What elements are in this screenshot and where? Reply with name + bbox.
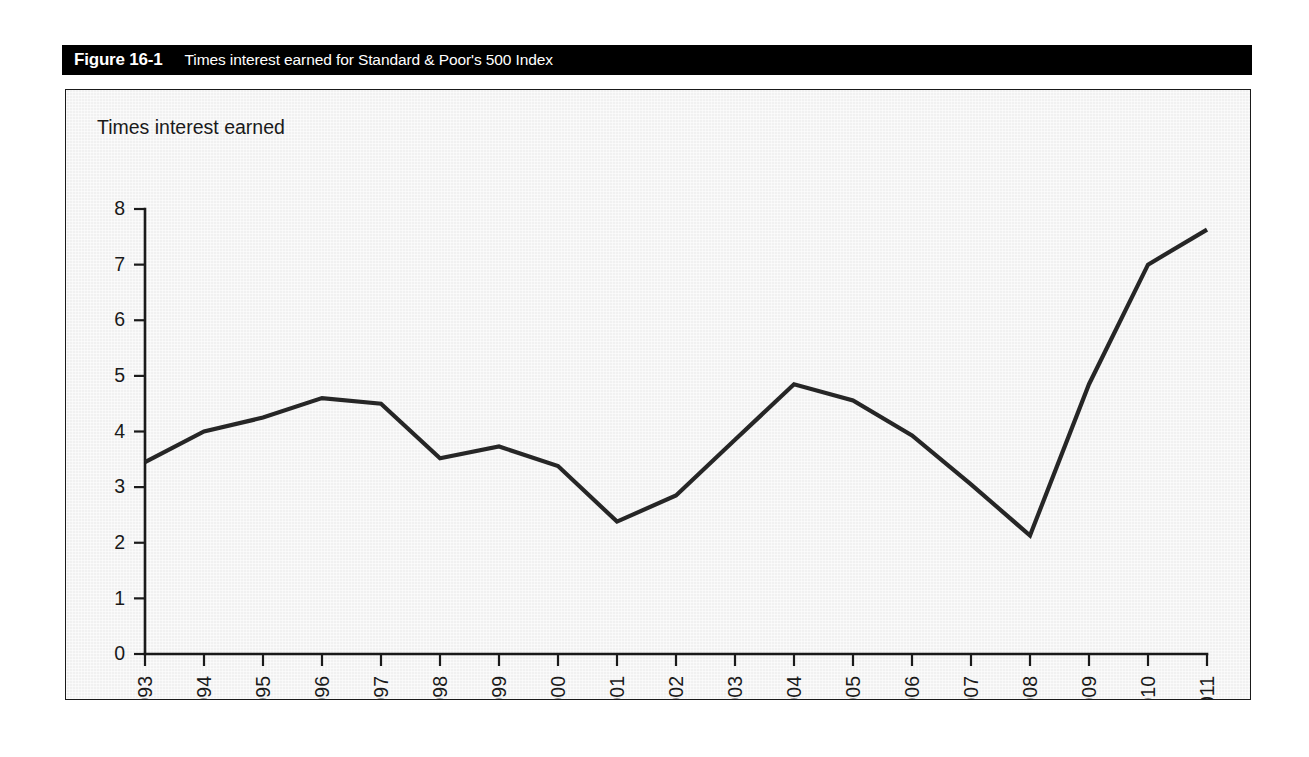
x-axis-tick-label: 2004 xyxy=(783,676,805,700)
x-axis-tick-label: 2009 xyxy=(1078,676,1100,700)
x-axis-tick-label: 1999 xyxy=(488,676,510,700)
x-axis-tick-label: 1995 xyxy=(252,676,274,700)
x-axis-tick-label: 1997 xyxy=(370,676,392,700)
x-axis-tick-label: 2002 xyxy=(665,676,687,700)
x-axis-tick-label: 2011 xyxy=(1196,676,1218,700)
x-axis-tick-label: 2005 xyxy=(842,676,864,700)
y-axis-tick-label: 4 xyxy=(114,420,125,442)
y-axis-tick-label: 1 xyxy=(114,587,125,609)
figure-caption-label: Times interest earned for Standard & Poo… xyxy=(185,51,553,69)
figure-container: Figure 16-1 Times interest earned for St… xyxy=(62,45,1252,700)
x-axis-tick-label: 2001 xyxy=(606,676,628,700)
x-axis-tick-label: 2003 xyxy=(724,676,746,700)
y-axis-tick-label: 0 xyxy=(114,642,125,664)
y-axis-tick-label: 5 xyxy=(114,364,125,386)
x-axis-tick-label: 1994 xyxy=(193,676,215,700)
x-axis-tick-label: 2000 xyxy=(547,676,569,700)
x-axis-tick-label: 2007 xyxy=(960,676,982,700)
y-axis-tick-label: 2 xyxy=(114,531,125,553)
x-axis-tick-label: 2006 xyxy=(901,676,923,700)
x-axis-tick-group: 1993199419951996199719981999200020012002… xyxy=(134,654,1218,700)
line-chart: 012345678 199319941995199619971998199920… xyxy=(66,90,1251,700)
y-axis-tick-group: 012345678 xyxy=(114,197,145,664)
x-axis-tick-label: 2010 xyxy=(1137,676,1159,700)
chart-plot-frame: Times interest earned 012345678 19931994… xyxy=(65,89,1251,700)
y-axis-tick-label: 8 xyxy=(114,197,125,219)
times-interest-earned-series xyxy=(145,230,1207,536)
x-axis-tick-label: 1998 xyxy=(429,676,451,700)
y-axis-tick-label: 6 xyxy=(114,308,125,330)
figure-number-label: Figure 16-1 xyxy=(74,50,163,70)
x-axis-tick-label: 1996 xyxy=(311,676,333,700)
y-axis-tick-label: 3 xyxy=(114,475,125,497)
x-axis-tick-label: 1993 xyxy=(134,676,156,700)
x-axis-tick-label: 2008 xyxy=(1019,676,1041,700)
figure-title-bar: Figure 16-1 Times interest earned for St… xyxy=(62,45,1252,75)
y-axis-tick-label: 7 xyxy=(114,253,125,275)
